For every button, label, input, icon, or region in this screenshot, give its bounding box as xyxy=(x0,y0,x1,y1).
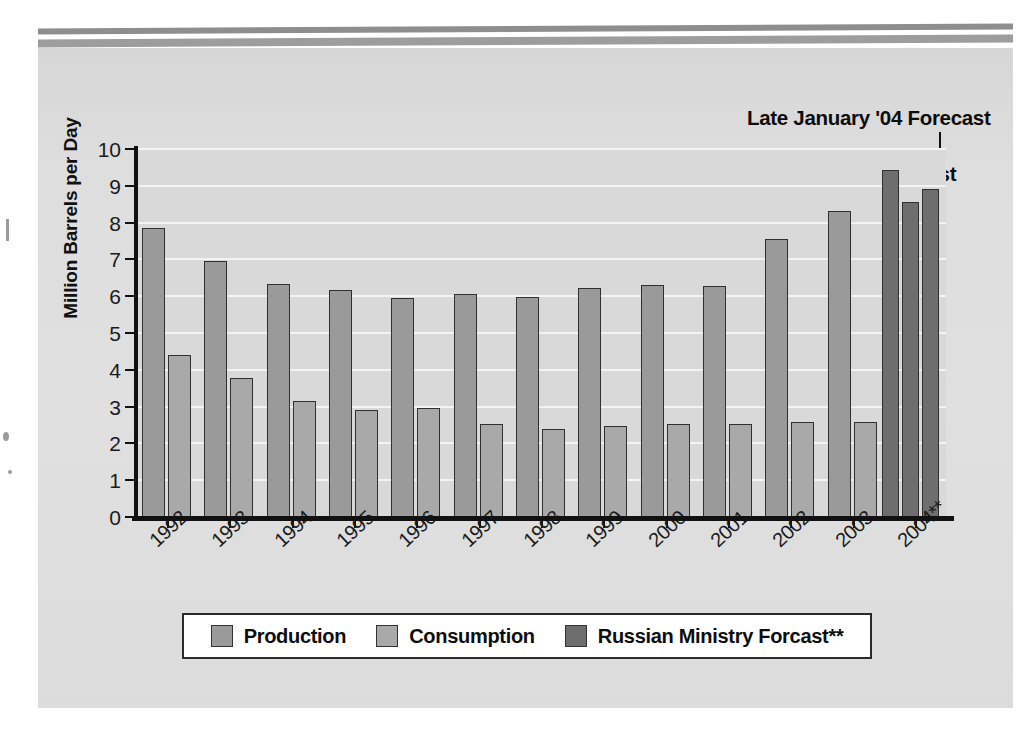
legend-label-ministry-forecast: Russian Ministry Forcast** xyxy=(598,625,844,648)
bar-ministry-forecast xyxy=(882,170,899,517)
top-rule-upper xyxy=(38,24,1013,35)
bar-ministry-forecast xyxy=(922,189,939,517)
y-axis-tick-label: 0 xyxy=(109,507,121,528)
legend-item-consumption[interactable]: Consumption xyxy=(376,625,535,648)
bar-consumption xyxy=(417,408,440,517)
y-axis-tick-label: 6 xyxy=(109,286,121,307)
top-rule-lower xyxy=(38,35,1013,48)
bar-consumption xyxy=(791,422,814,517)
bar-ministry-forecast xyxy=(902,202,919,517)
y-axis-title: Million Barrels per Day xyxy=(60,117,82,318)
gridline xyxy=(136,442,946,444)
bar-production xyxy=(142,228,165,517)
annotation-late-january-forecast: Late January '04 Forecast xyxy=(747,106,991,130)
bar-production xyxy=(578,288,601,517)
y-axis-tick-label: 10 xyxy=(98,139,121,160)
plot-area: 012345678910 199219931994199519961997199… xyxy=(136,149,946,517)
y-axis-line xyxy=(134,146,138,520)
legend-swatch-consumption xyxy=(376,625,398,647)
bar-production xyxy=(454,294,477,517)
gridline xyxy=(136,258,946,260)
bar-production xyxy=(641,285,664,517)
bar-production xyxy=(329,290,352,517)
bar-consumption xyxy=(604,426,627,517)
bar-consumption xyxy=(480,424,503,517)
bar-production xyxy=(391,298,414,517)
chart-legend: Production Consumption Russian Ministry … xyxy=(182,613,872,659)
bar-consumption xyxy=(542,429,565,517)
y-axis-tick-label: 1 xyxy=(109,470,121,491)
bar-consumption xyxy=(168,355,191,517)
gridline xyxy=(136,222,946,224)
legend-swatch-production xyxy=(211,625,233,647)
bar-consumption xyxy=(355,410,378,517)
page-top-rules xyxy=(38,26,1013,48)
gridline xyxy=(136,148,946,150)
legend-item-ministry-forecast[interactable]: Russian Ministry Forcast** xyxy=(565,625,844,648)
bar-production xyxy=(765,239,788,517)
gridline xyxy=(136,295,946,297)
legend-label-consumption: Consumption xyxy=(409,625,535,648)
bar-consumption xyxy=(230,378,253,517)
bar-production xyxy=(204,261,227,517)
gridline xyxy=(136,185,946,187)
y-axis-tick-label: 9 xyxy=(109,175,121,196)
y-axis-tick-label: 4 xyxy=(109,359,121,380)
y-axis-tick-label: 5 xyxy=(109,323,121,344)
left-edge-artifact-upper xyxy=(6,219,9,241)
bar-production xyxy=(828,211,851,517)
bar-production xyxy=(267,284,290,517)
bar-consumption xyxy=(729,424,752,517)
chart-panel: Million Barrels per Day Late January '04… xyxy=(38,48,1013,708)
bar-consumption xyxy=(293,401,316,517)
y-axis-tick-label: 8 xyxy=(109,212,121,233)
gridline xyxy=(136,369,946,371)
left-edge-artifact-mid xyxy=(3,432,9,441)
y-axis-tick-label: 3 xyxy=(109,396,121,417)
bar-consumption xyxy=(854,422,877,517)
bar-consumption xyxy=(667,424,690,517)
bar-production xyxy=(703,286,726,517)
legend-item-production[interactable]: Production xyxy=(211,625,347,648)
left-edge-artifact-lower xyxy=(8,470,12,474)
x-axis-line xyxy=(132,516,954,521)
y-axis-tick-label: 2 xyxy=(109,433,121,454)
legend-label-production: Production xyxy=(244,625,347,648)
y-axis-tick-label: 7 xyxy=(109,249,121,270)
gridline xyxy=(136,406,946,408)
bar-production xyxy=(516,297,539,517)
legend-swatch-ministry-forecast xyxy=(565,625,587,647)
gridline xyxy=(136,332,946,334)
gridline xyxy=(136,479,946,481)
